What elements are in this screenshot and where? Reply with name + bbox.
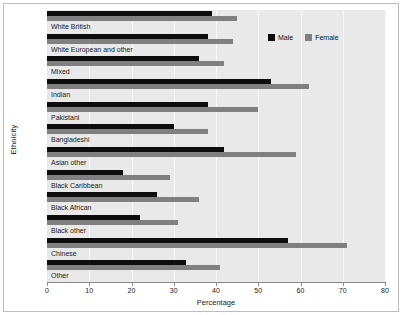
legend-item-female: Female (305, 34, 338, 41)
category-label: Mixed (51, 67, 70, 76)
bar-female (47, 175, 170, 180)
bar-female (47, 107, 258, 112)
tick-label-40: 40 (204, 287, 228, 294)
category-label: Black Caribbean (51, 181, 102, 190)
legend: Male Female (268, 34, 339, 41)
tick-label-20: 20 (120, 287, 144, 294)
tickmark-80 (385, 282, 386, 286)
tickmark-10 (89, 282, 90, 286)
x-axis-title: Percentage (47, 298, 385, 307)
tick-label-10: 10 (77, 287, 101, 294)
bar-female (47, 61, 224, 66)
bar-group: Indian (47, 78, 385, 101)
bar-group: Other (47, 259, 385, 282)
bar-female (47, 84, 309, 89)
category-label: Indian (51, 90, 70, 99)
legend-label-female: Female (315, 34, 338, 41)
tick-label-50: 50 (246, 287, 270, 294)
bar-female (47, 16, 237, 21)
category-label: White European and other (51, 45, 133, 54)
category-label: Pakistani (51, 113, 79, 122)
tickmark-0 (47, 282, 48, 286)
tick-label-0: 0 (35, 287, 59, 294)
bar-group: Asian other (47, 146, 385, 169)
category-label: Asian other (51, 158, 86, 167)
category-label: Chinese (51, 249, 77, 258)
chart-figure: Ethnicity White BritishWhite European an… (0, 0, 402, 315)
plot-area: White BritishWhite European and otherMix… (47, 10, 385, 282)
bar-group: Black other (47, 214, 385, 237)
tick-label-80: 80 (373, 287, 397, 294)
legend-swatch-male (268, 34, 275, 41)
tick-label-60: 60 (289, 287, 313, 294)
bar-female (47, 129, 208, 134)
category-label: White British (51, 22, 90, 31)
bar-group: Pakistani (47, 101, 385, 124)
bar-female (47, 243, 347, 248)
tickmark-30 (174, 282, 175, 286)
bar-female (47, 197, 199, 202)
tickmark-40 (216, 282, 217, 286)
bar-group: Mixed (47, 55, 385, 78)
tickmark-50 (258, 282, 259, 286)
bar-group: Black Caribbean (47, 169, 385, 192)
category-label: Other (51, 271, 69, 280)
bar-female (47, 220, 178, 225)
tick-label-30: 30 (162, 287, 186, 294)
legend-swatch-female (305, 34, 312, 41)
tickmark-70 (343, 282, 344, 286)
bar-female (47, 265, 220, 270)
bar-group: Chinese (47, 237, 385, 260)
y-axis-title: Ethnicity (9, 110, 18, 170)
category-label: Black other (51, 226, 86, 235)
bar-group: Black African (47, 191, 385, 214)
bar-group: White British (47, 10, 385, 33)
bar-group: Bangladeshi (47, 123, 385, 146)
category-label: Black African (51, 203, 91, 212)
tick-label-70: 70 (331, 287, 355, 294)
category-label: Bangladeshi (51, 135, 90, 144)
bar-female (47, 39, 233, 44)
bar-female (47, 152, 296, 157)
tickmark-60 (301, 282, 302, 286)
gridline-80 (385, 10, 386, 282)
legend-label-male: Male (278, 34, 293, 41)
legend-item-male: Male (268, 34, 293, 41)
tickmark-20 (132, 282, 133, 286)
